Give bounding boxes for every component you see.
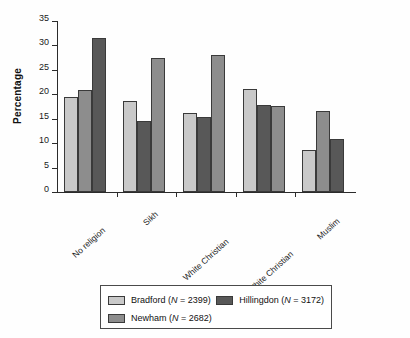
legend-item-bradford: Bradford (N = 2399) (108, 295, 216, 305)
bar-no-religion-newham (78, 90, 92, 192)
chart-legend: Bradford (N = 2399) Hillingdon (N = 3172… (100, 285, 332, 329)
legend-item-hillingdon: Hillingdon (N = 3172) (216, 295, 324, 305)
y-tick-label-20: 20 (39, 87, 49, 96)
bar-sikh-hillingdon (137, 121, 151, 192)
y-axis-title: Percentage (12, 68, 23, 124)
legend-swatch-bradford-icon (108, 296, 125, 305)
bar-non-white-christian-bradford (243, 89, 257, 192)
legend-swatch-hillingdon-icon (216, 296, 233, 305)
plot-area (57, 21, 355, 192)
y-tick-0: 0 (52, 192, 57, 193)
chart-figure: Percentage 05101520253035 No religionSik… (0, 0, 410, 338)
bar-no-religion-hillingdon (92, 38, 106, 192)
bar-muslim-bradford (302, 150, 316, 193)
y-tick-label-10: 10 (39, 136, 49, 145)
legend-item-newham: Newham (N = 2682) (108, 313, 236, 323)
x-label-no-religion: No religion (70, 225, 107, 260)
bar-no-religion-bradford (64, 97, 78, 192)
bar-muslim-hillingdon (330, 139, 344, 192)
y-tick-label-35: 35 (39, 14, 49, 23)
y-tick-label-0: 0 (44, 185, 49, 194)
legend-label-newham: Newham (N = 2682) (131, 313, 212, 323)
legend-label-hillingdon: Hillingdon (N = 3172) (239, 295, 324, 305)
legend-row-2: Newham (N = 2682) (108, 309, 324, 327)
legend-label-bradford: Bradford (N = 2399) (131, 295, 211, 305)
legend-swatch-newham-icon (108, 314, 125, 323)
x-tick-2 (176, 192, 177, 197)
bar-non-white-christian-newham (271, 106, 285, 192)
legend-row-1: Bradford (N = 2399) Hillingdon (N = 3172… (108, 291, 324, 309)
bar-muslim-newham (316, 111, 330, 192)
y-tick-label-25: 25 (39, 63, 49, 72)
bar-sikh-newham (151, 58, 165, 192)
x-tick-4 (295, 192, 296, 197)
x-tick-3 (236, 192, 237, 197)
x-label-muslim: Muslim (315, 216, 342, 241)
y-tick-label-15: 15 (39, 112, 49, 121)
x-label-white-christian: White Christian (181, 237, 231, 283)
bar-sikh-bradford (123, 101, 137, 192)
bar-non-white-christian-hillingdon (257, 105, 271, 192)
bar-white-christian-newham (211, 55, 225, 192)
y-tick-label-5: 5 (44, 161, 49, 170)
x-axis-line (57, 192, 356, 193)
x-tick-1 (117, 192, 118, 197)
x-label-sikh: Sikh (141, 209, 160, 228)
bar-white-christian-bradford (183, 113, 197, 192)
bar-white-christian-hillingdon (197, 117, 211, 192)
y-tick-label-30: 30 (39, 38, 49, 47)
